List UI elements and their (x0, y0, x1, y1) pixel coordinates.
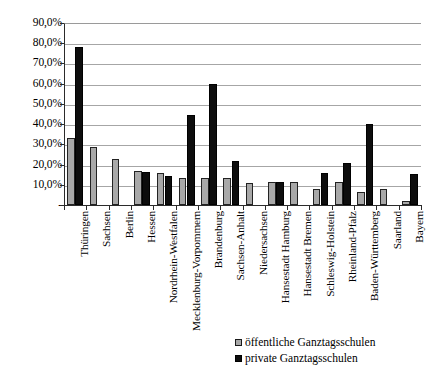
bar (209, 84, 217, 205)
x-axis-category-label: Niedersachsen (258, 211, 269, 275)
x-axis-category-text: Sachsen-Anhalt (235, 211, 246, 280)
x-axis-category-text: Brandenburg (213, 211, 224, 268)
x-axis-category-text: Nordrhein-Westfalen (168, 211, 179, 303)
x-axis-category-text: Mecklenburg-Vorpommern (191, 211, 202, 331)
y-axis-tick-label: 20,0% (4, 159, 62, 171)
x-axis-category-text: Hansestadt Bremen (302, 211, 313, 297)
x-axis-labels: ThüringenSachsenBerlinHessenNordrhein-We… (64, 205, 421, 335)
x-axis-category-label: Hansestadt Hamburg (280, 211, 291, 303)
x-axis-category-text: Niedersachsen (258, 211, 269, 275)
bar (134, 171, 142, 205)
x-axis-category-label: Saarland (392, 211, 403, 249)
bars-layer (64, 23, 421, 205)
bar (112, 159, 120, 206)
y-axis-tick-label: - (4, 199, 62, 211)
bar (290, 182, 298, 205)
y-axis-tick-label: 60,0% (4, 78, 62, 90)
x-axis-category-label: Brandenburg (213, 211, 224, 268)
bar (67, 138, 75, 205)
bar (142, 172, 150, 205)
x-axis-category-label: Baden-Württemberg (369, 211, 380, 301)
x-axis-tick-mark (421, 205, 422, 210)
y-axis-tick-label: 90,0% (4, 17, 62, 29)
bar (223, 178, 231, 205)
x-axis-category-text: Bayern (414, 211, 425, 243)
legend-swatch-public-icon (235, 339, 242, 346)
y-axis-tick-label: 80,0% (4, 37, 62, 49)
bar (313, 189, 321, 205)
y-axis-tick-label: 40,0% (4, 118, 62, 130)
legend-label-public: öffentliche Ganztagsschulen (245, 336, 375, 349)
bar (75, 47, 83, 205)
x-axis-category-text: Saarland (392, 211, 403, 249)
x-axis-category-label: Sachsen (101, 211, 112, 247)
y-axis-tick-label: 10,0% (4, 179, 62, 191)
x-axis-category-label: Sachsen-Anhalt (235, 211, 246, 280)
bar (187, 115, 195, 205)
bar (276, 182, 284, 205)
x-axis-category-label: Nordrhein-Westfalen (168, 211, 179, 303)
bar (357, 192, 365, 205)
bar (335, 182, 343, 205)
x-axis-category-text: Sachsen (101, 211, 112, 247)
x-axis-category-text: Thüringen (79, 211, 90, 257)
x-axis-category-text: Schleswig-Holstein (325, 211, 336, 297)
bar (90, 147, 98, 205)
bar-chart: 90,0%80,0%70,0%60,0%50,0%40,0%30,0%20,0%… (0, 0, 443, 386)
x-axis-category-text: Hessen (146, 211, 157, 243)
legend-item-private: private Ganztagsschulen (235, 352, 435, 365)
x-axis-category-label: Bayern (414, 211, 425, 243)
y-axis-tick-label: 70,0% (4, 57, 62, 69)
legend-item-public: öffentliche Ganztagsschulen (235, 336, 435, 349)
bar (321, 173, 329, 205)
bar (410, 174, 418, 205)
bar (366, 124, 374, 205)
y-axis: 90,0%80,0%70,0%60,0%50,0%40,0%30,0%20,0%… (0, 0, 62, 386)
x-axis-category-text: Berlin (124, 211, 135, 238)
x-axis-category-label: Hessen (146, 211, 157, 243)
x-axis-category-text: Rheinland-Pfalz (347, 211, 358, 282)
bar (179, 178, 187, 205)
bar (157, 173, 165, 205)
bar (380, 189, 388, 205)
bar (268, 182, 276, 205)
legend-swatch-private-icon (235, 355, 242, 362)
x-axis-category-text: Hansestadt Hamburg (280, 211, 291, 303)
bar (232, 161, 240, 205)
x-axis-category-label: Mecklenburg-Vorpommern (191, 211, 202, 331)
x-axis-category-label: Hansestadt Bremen (302, 211, 313, 297)
x-axis-category-label: Berlin (124, 211, 135, 238)
legend-label-private: private Ganztagsschulen (245, 352, 358, 365)
x-axis-category-text: Baden-Württemberg (369, 211, 380, 301)
x-axis-category-label: Thüringen (79, 211, 90, 257)
x-axis-category-label: Rheinland-Pfalz (347, 211, 358, 282)
chart-legend: öffentliche Ganztagsschulen private Ganz… (235, 336, 435, 368)
bar (246, 183, 254, 205)
bar (165, 176, 173, 205)
x-axis-category-label: Schleswig-Holstein (325, 211, 336, 297)
bar (201, 178, 209, 205)
bar (343, 163, 351, 205)
y-axis-tick-label: 30,0% (4, 138, 62, 150)
y-axis-tick-label: 50,0% (4, 98, 62, 110)
